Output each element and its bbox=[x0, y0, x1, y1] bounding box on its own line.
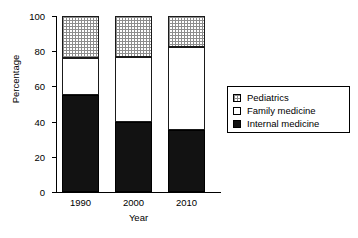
legend: Pediatrics Family medicine Internal medi… bbox=[227, 86, 350, 133]
y-tick-label-80: 80 bbox=[19, 46, 45, 57]
y-axis-title: Percentage bbox=[10, 29, 24, 129]
bar-2000-segment-pediatrics bbox=[115, 16, 152, 57]
legend-item-family-medicine[interactable]: Family medicine bbox=[233, 104, 349, 117]
bar-1990-segment-family-medicine bbox=[62, 58, 99, 95]
bar-2010[interactable] bbox=[168, 16, 205, 192]
y-tick-0: 0 bbox=[52, 192, 57, 193]
bar-1990-segment-internal-medicine bbox=[62, 95, 99, 192]
y-tick-100: 100 bbox=[52, 16, 57, 17]
bar-1990-segment-pediatrics bbox=[62, 16, 99, 58]
y-tick-label-20: 20 bbox=[19, 151, 45, 162]
y-tick-80: 80 bbox=[52, 51, 57, 52]
y-tick-label-100: 100 bbox=[19, 11, 45, 22]
bar-2000[interactable] bbox=[115, 16, 152, 192]
x-tick-label-2010: 2010 bbox=[152, 197, 222, 208]
stacked-bar-chart: Percentage 100 80 60 40 20 0 bbox=[0, 0, 358, 238]
bar-1990[interactable] bbox=[62, 16, 99, 192]
y-tick-label-60: 60 bbox=[19, 81, 45, 92]
y-tick-label-40: 40 bbox=[19, 116, 45, 127]
internal-medicine-swatch-icon bbox=[233, 120, 241, 128]
y-tick-label-0: 0 bbox=[19, 187, 45, 198]
y-tick-20: 20 bbox=[52, 157, 57, 158]
pediatrics-swatch-icon bbox=[233, 94, 241, 102]
bar-2010-segment-pediatrics bbox=[168, 16, 205, 47]
family-medicine-swatch-icon bbox=[233, 107, 241, 115]
y-axis-line bbox=[56, 16, 57, 192]
plot-area: 100 80 60 40 20 0 bbox=[56, 16, 220, 192]
y-tick-40: 40 bbox=[52, 122, 57, 123]
legend-label-family-medicine: Family medicine bbox=[247, 105, 316, 116]
x-axis-title: Year bbox=[56, 212, 221, 223]
x-axis-line bbox=[56, 192, 221, 193]
y-tick-60: 60 bbox=[52, 86, 57, 87]
legend-item-internal-medicine[interactable]: Internal medicine bbox=[233, 117, 349, 130]
bar-2010-segment-internal-medicine bbox=[168, 130, 205, 192]
legend-label-internal-medicine: Internal medicine bbox=[247, 118, 319, 129]
legend-label-pediatrics: Pediatrics bbox=[247, 92, 289, 103]
legend-item-pediatrics[interactable]: Pediatrics bbox=[233, 91, 349, 104]
bar-2000-segment-internal-medicine bbox=[115, 122, 152, 192]
bar-2000-segment-family-medicine bbox=[115, 57, 152, 121]
bar-2010-segment-family-medicine bbox=[168, 47, 205, 131]
